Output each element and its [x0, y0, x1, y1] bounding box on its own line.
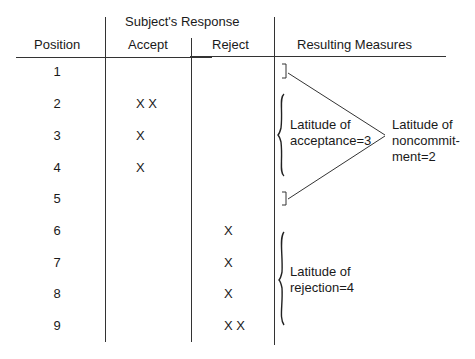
bracket-position-1 — [282, 64, 286, 78]
latitude-of-acceptance-label: Latitude of acceptance=3 — [290, 117, 371, 149]
latitude-of-rejection-label: Latitude of rejection=4 — [290, 264, 354, 296]
bracket-position-5 — [282, 192, 286, 205]
measures-annotation-lines — [0, 0, 475, 359]
acceptance-line-2: acceptance=3 — [290, 133, 371, 149]
rejection-line-1: Latitude of — [290, 264, 354, 280]
noncommitment-line-1: Latitude of — [392, 117, 460, 133]
brace-rejection — [279, 232, 284, 325]
noncommitment-line-2: noncommit- — [392, 133, 460, 149]
latitude-of-noncommitment-label: Latitude of noncommit- ment=2 — [392, 117, 460, 165]
noncommitment-line-3: ment=2 — [392, 149, 460, 165]
acceptance-line-1: Latitude of — [290, 117, 371, 133]
rejection-line-2: rejection=4 — [290, 280, 354, 296]
brace-acceptance — [278, 94, 284, 176]
